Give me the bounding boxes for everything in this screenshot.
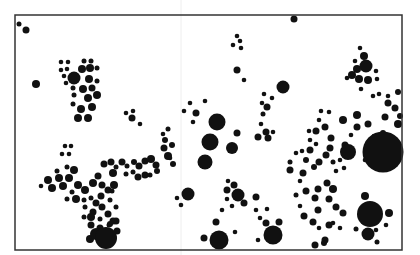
map-dot: [198, 155, 213, 170]
map-dot: [86, 64, 94, 72]
map-dot: [258, 216, 263, 221]
map-dot: [161, 145, 168, 152]
dot-map: [0, 0, 420, 255]
map-dot: [71, 102, 76, 107]
map-dot: [59, 60, 64, 65]
map-dot: [313, 128, 320, 135]
map-dot: [70, 190, 75, 195]
map-dot: [95, 79, 100, 84]
map-dot: [108, 159, 115, 166]
map-dot: [364, 76, 372, 84]
map-dot: [238, 39, 243, 44]
map-dot: [99, 182, 106, 189]
map-dot: [65, 67, 70, 72]
map-dot: [322, 124, 329, 131]
map-dot: [162, 137, 168, 143]
map-dot: [230, 204, 235, 209]
map-dot: [321, 240, 327, 246]
map-dot: [333, 204, 340, 211]
map-dot: [65, 165, 70, 170]
map-dot: [357, 201, 383, 227]
map-dot: [300, 170, 307, 177]
map-dot: [72, 195, 80, 203]
map-dot: [300, 149, 305, 154]
map-dot: [327, 110, 332, 115]
map-dot: [95, 173, 102, 180]
map-dot: [88, 103, 96, 111]
map-dot: [226, 179, 231, 184]
map-dot: [85, 75, 93, 83]
map-dot: [101, 161, 108, 168]
map-dot: [154, 168, 160, 174]
map-dot: [338, 158, 343, 163]
map-dot: [48, 184, 56, 192]
map-dot: [311, 164, 317, 170]
map-dot: [303, 157, 309, 163]
map-dot: [294, 193, 299, 198]
map-dot: [188, 101, 193, 106]
map-dot: [114, 228, 121, 235]
map-dot: [262, 92, 267, 97]
map-dot: [169, 142, 175, 148]
map-dot: [303, 188, 310, 195]
map-dot: [98, 193, 105, 200]
map-dot: [67, 152, 72, 157]
map-dot: [220, 208, 225, 213]
map-dot: [294, 151, 299, 156]
map-dot: [260, 101, 265, 106]
map-dot: [89, 85, 96, 92]
map-dot: [79, 85, 87, 93]
map-dot: [395, 89, 401, 95]
map-dot: [394, 120, 402, 128]
map-dot: [88, 222, 95, 229]
map-dot: [270, 96, 275, 101]
map-dot: [349, 133, 354, 138]
map-dot: [63, 144, 68, 149]
map-dot: [317, 118, 322, 123]
map-dot: [315, 186, 322, 193]
map-dot: [83, 205, 88, 210]
map-dot: [84, 114, 92, 122]
map-dot: [136, 163, 143, 170]
map-dot: [82, 59, 87, 64]
map-dot: [327, 145, 334, 152]
map-dot: [307, 147, 314, 154]
map-dot: [384, 223, 389, 228]
map-dot: [340, 210, 347, 217]
map-dot: [360, 60, 373, 73]
map-dot: [307, 129, 312, 134]
map-dot: [44, 176, 52, 184]
map-dot: [264, 104, 271, 111]
map-dot: [385, 100, 392, 107]
map-dot: [265, 207, 270, 212]
map-dot: [23, 27, 30, 34]
map-dot: [288, 160, 293, 165]
map-dot: [148, 173, 153, 178]
map-dot: [254, 208, 259, 213]
map-dot: [362, 228, 375, 241]
map-dot: [71, 86, 76, 91]
map-dot: [131, 109, 136, 114]
map-dot: [374, 228, 379, 233]
map-dot: [340, 144, 356, 160]
map-dot: [147, 155, 155, 163]
map-dot: [55, 169, 60, 174]
map-dot: [124, 111, 129, 116]
map-dot: [74, 181, 82, 189]
map-dot: [129, 115, 136, 122]
map-dot: [385, 209, 393, 217]
map-dot: [105, 211, 112, 218]
map-dot: [316, 159, 323, 166]
map-dot: [226, 142, 238, 154]
map-dot: [131, 170, 136, 175]
map-dot: [233, 230, 238, 235]
map-dot: [99, 204, 106, 211]
map-dot: [353, 59, 358, 64]
map-dot: [317, 226, 322, 231]
map-dot: [239, 46, 244, 51]
map-dot: [312, 195, 319, 202]
map-dot: [231, 43, 236, 48]
map-dot: [125, 164, 130, 169]
map-dot: [182, 109, 187, 114]
map-dot: [93, 91, 101, 99]
